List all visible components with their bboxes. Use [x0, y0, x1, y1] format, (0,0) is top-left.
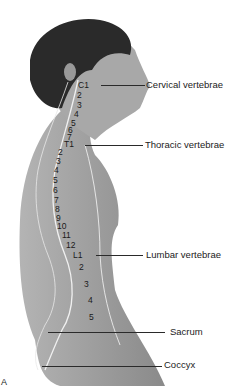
thoracic-leader-line — [85, 145, 143, 146]
vertebra-t11: 11 — [62, 231, 71, 240]
vertebra-l2: 2 — [79, 263, 84, 272]
label-cervical-vertebrae: Cervical vertebrae — [146, 79, 223, 90]
lumbar-leader-line — [96, 255, 143, 256]
vertebra-l5: 5 — [89, 313, 94, 322]
vertebra-l4: 4 — [88, 296, 93, 305]
vertebra-c2: 2 — [77, 91, 82, 100]
coccyx-leader-line — [42, 366, 162, 367]
vertebra-l1: L1 — [73, 251, 82, 260]
cervical-leader-line — [101, 85, 145, 86]
label-coccyx: Coccyx — [164, 359, 195, 370]
vertebra-t5: 5 — [53, 176, 58, 185]
label-sacrum: Sacrum — [170, 326, 203, 337]
panel-letter: A — [1, 377, 7, 387]
vertebra-t6: 6 — [53, 186, 58, 195]
vertebra-t4: 4 — [54, 166, 59, 175]
sacrum-leader-line — [48, 332, 165, 333]
vertebra-t1: T1 — [64, 140, 74, 149]
vertebra-c1: C1 — [78, 81, 89, 90]
vertebra-t12: 12 — [66, 241, 75, 250]
vertebra-l3: 3 — [84, 280, 89, 289]
label-lumbar-vertebrae: Lumbar vertebrae — [146, 249, 221, 260]
spine-anatomy-figure: C1 2 3 4 5 6 7 T1 2 3 4 5 6 7 8 9 10 11 … — [0, 0, 250, 391]
label-thoracic-vertebrae: Thoracic vertebrae — [145, 139, 224, 150]
